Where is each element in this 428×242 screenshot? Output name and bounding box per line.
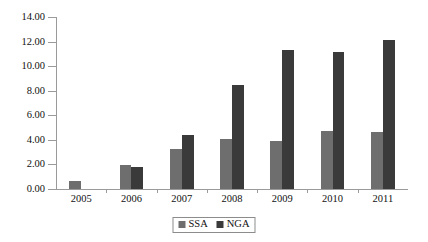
x-axis-label-2006: 2006 xyxy=(106,194,156,205)
y-axis-tick-label: 8.00 xyxy=(27,85,45,96)
legend-swatch-nga-icon xyxy=(217,221,224,228)
legend-swatch-ssa-icon xyxy=(178,221,185,228)
bar-group xyxy=(207,17,257,189)
x-axis-tick xyxy=(307,189,308,193)
y-axis-tick xyxy=(48,140,56,141)
legend-entry-ssa: SSA xyxy=(178,219,207,230)
y-axis-tick xyxy=(48,189,56,190)
bar-group xyxy=(56,17,106,189)
bar-group xyxy=(157,17,207,189)
bar-ssa-2006 xyxy=(120,165,132,189)
bar-ssa-2009 xyxy=(270,141,282,189)
y-axis-tick-label: 6.00 xyxy=(27,110,45,121)
x-axis-tick xyxy=(257,189,258,193)
y-axis-tick-label: 2.00 xyxy=(27,159,45,170)
x-axis-label-2008: 2008 xyxy=(207,194,257,205)
x-axis-tick xyxy=(207,189,208,193)
bar-ssa-2010 xyxy=(321,131,333,189)
plot-area: 0.002.004.006.008.0010.0012.0014.00 xyxy=(56,17,408,189)
bar-chart: 0.002.004.006.008.0010.0012.0014.00 SSA … xyxy=(0,0,428,242)
x-axis-tick xyxy=(157,189,158,193)
y-axis-tick xyxy=(48,66,56,67)
legend-label-ssa: SSA xyxy=(188,219,207,230)
bar-ssa-2008 xyxy=(220,139,232,189)
x-axis-label-2011: 2011 xyxy=(358,194,408,205)
bar-ssa-2005 xyxy=(69,181,81,189)
bar-nga-2006 xyxy=(131,167,143,189)
chart-legend: SSA NGA xyxy=(172,217,255,233)
legend-entry-nga: NGA xyxy=(217,219,250,230)
x-axis-tick xyxy=(358,189,359,193)
legend-label-nga: NGA xyxy=(227,219,250,230)
bar-nga-2011 xyxy=(383,40,395,189)
x-axis-tick xyxy=(106,189,107,193)
y-axis-tick xyxy=(48,115,56,116)
y-axis-tick xyxy=(48,164,56,165)
bar-nga-2007 xyxy=(182,135,194,189)
bar-ssa-2007 xyxy=(170,149,182,189)
y-axis-tick xyxy=(48,17,56,18)
y-axis-tick-label: 10.00 xyxy=(21,61,45,72)
y-axis-tick-label: 4.00 xyxy=(27,135,45,146)
bar-nga-2008 xyxy=(232,85,244,189)
y-axis-tick-label: 14.00 xyxy=(21,12,45,23)
x-axis-label-2010: 2010 xyxy=(307,194,357,205)
bar-ssa-2011 xyxy=(371,132,383,189)
y-axis-tick xyxy=(48,91,56,92)
bar-group xyxy=(106,17,156,189)
bar-group xyxy=(307,17,357,189)
bar-group xyxy=(257,17,307,189)
x-axis-label-2009: 2009 xyxy=(257,194,307,205)
y-axis-tick-label: 0.00 xyxy=(27,184,45,195)
bar-nga-2009 xyxy=(282,50,294,189)
bar-nga-2010 xyxy=(333,52,345,189)
y-axis-tick-label: 12.00 xyxy=(21,36,45,47)
x-axis-label-2007: 2007 xyxy=(157,194,207,205)
bar-group xyxy=(358,17,408,189)
x-axis-label-2005: 2005 xyxy=(56,194,106,205)
y-axis-tick xyxy=(48,42,56,43)
x-axis-line xyxy=(56,189,408,190)
